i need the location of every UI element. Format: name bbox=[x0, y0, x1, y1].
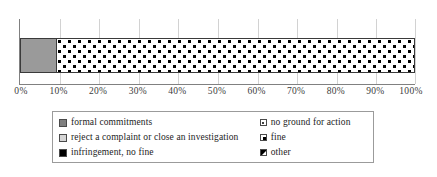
legend-label-other: other bbox=[271, 145, 291, 160]
stacked-bar bbox=[20, 38, 415, 73]
x-tick-label-30: 30% bbox=[129, 86, 147, 96]
legend-column-left: formal commitments reject a complaint or… bbox=[53, 115, 260, 162]
x-axis-tick-labels: 0% 10% 20% 30% 40% 50% 60% 70% 80% 90% 1… bbox=[19, 86, 415, 102]
legend-swatch-reject-a-complaint-icon bbox=[59, 134, 67, 142]
gridline-100 bbox=[415, 19, 416, 84]
legend-swatch-formal-commitments-icon bbox=[59, 119, 67, 127]
x-tick-label-80: 80% bbox=[327, 86, 345, 96]
legend-swatch-infringement-no-fine-icon bbox=[59, 149, 67, 157]
x-tick-label-20: 20% bbox=[89, 86, 107, 96]
x-tick-label-100: 100% bbox=[399, 86, 422, 96]
legend-item-infringement-no-fine: infringement, no fine bbox=[59, 145, 260, 160]
stacked-bar-chart: 0% 10% 20% 30% 40% 50% 60% 70% 80% 90% 1… bbox=[0, 0, 437, 104]
legend-label-fine: fine bbox=[271, 130, 286, 145]
legend-swatch-no-ground-for-action-icon bbox=[260, 119, 267, 126]
x-tick-label-40: 40% bbox=[168, 86, 186, 96]
legend-swatch-other-icon bbox=[260, 149, 267, 156]
legend-item-no-ground-for-action: no ground for action bbox=[260, 115, 373, 130]
legend-label-infringement-no-fine: infringement, no fine bbox=[71, 145, 154, 160]
x-tick-label-0: 0% bbox=[14, 86, 27, 96]
x-tick-label-10: 10% bbox=[49, 86, 67, 96]
legend-item-reject-a-complaint: reject a complaint or close an investiga… bbox=[59, 130, 260, 145]
x-tick-label-90: 90% bbox=[366, 86, 384, 96]
legend-label-reject-a-complaint: reject a complaint or close an investiga… bbox=[71, 130, 238, 145]
legend-item-formal-commitments: formal commitments bbox=[59, 115, 260, 130]
legend-item-other: other bbox=[260, 145, 373, 160]
chart-legend: formal commitments reject a complaint or… bbox=[52, 111, 374, 163]
plot-area bbox=[19, 19, 415, 85]
x-tick-label-50: 50% bbox=[208, 86, 226, 96]
legend-label-no-ground-for-action: no ground for action bbox=[271, 115, 351, 130]
legend-swatch-fine-icon bbox=[260, 134, 267, 141]
x-tick-label-70: 70% bbox=[287, 86, 305, 96]
x-tick-label-60: 60% bbox=[247, 86, 265, 96]
bar-segment-no-ground-for-action bbox=[56, 38, 415, 73]
legend-column-right: no ground for action fine other bbox=[260, 115, 373, 162]
legend-label-formal-commitments: formal commitments bbox=[71, 115, 152, 130]
bar-segment-reject-a-complaint-or-close-an-investigation bbox=[20, 38, 56, 73]
legend-item-fine: fine bbox=[260, 130, 373, 145]
